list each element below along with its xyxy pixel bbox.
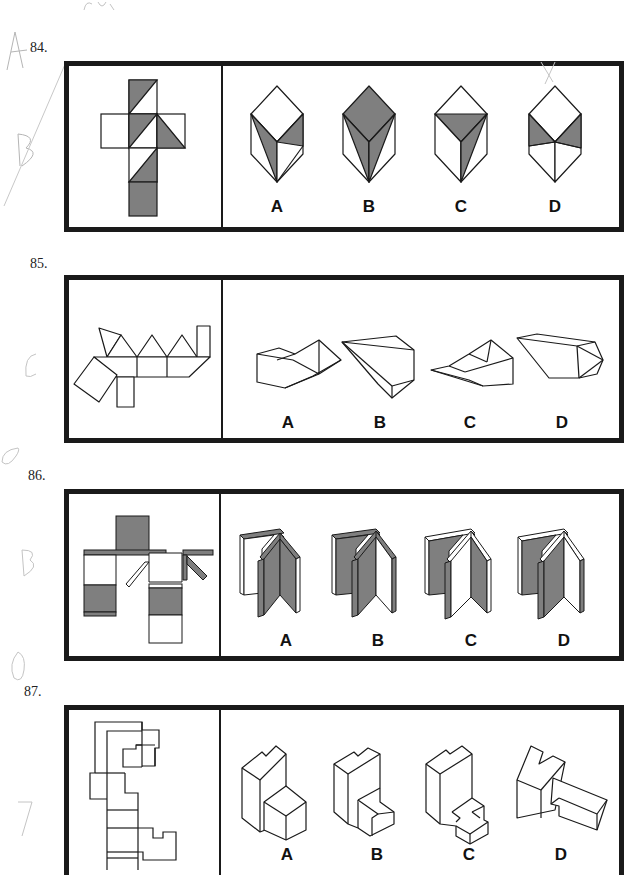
option-c-label[interactable]: C <box>454 845 484 865</box>
margin-mark-o <box>8 650 30 684</box>
margin-mark-c <box>20 350 40 380</box>
margin-mark-o <box>0 446 24 468</box>
panel-divider <box>221 280 223 438</box>
option-a-block[interactable] <box>240 740 330 840</box>
x-mark-on-option-d <box>539 60 559 86</box>
margin-mark-b <box>18 546 40 580</box>
option-d-solid[interactable] <box>515 328 595 398</box>
option-a-cube[interactable] <box>247 84 307 184</box>
panel-divider <box>219 494 221 656</box>
option-d-label[interactable]: D <box>546 845 576 865</box>
panel-divider <box>219 710 221 875</box>
option-c-label[interactable]: C <box>455 413 485 433</box>
question-84-panel: A B C D <box>64 61 624 232</box>
question-85-panel: A B C D <box>64 275 624 443</box>
book-net-figure <box>69 494 219 659</box>
option-c-cube[interactable] <box>431 84 491 184</box>
question-87-panel: A B C D <box>64 705 624 875</box>
question-number: 85. <box>30 256 48 272</box>
option-a-label[interactable]: A <box>262 197 292 217</box>
option-d-label[interactable]: D <box>549 631 579 651</box>
option-a-label[interactable]: A <box>273 413 303 433</box>
option-b-block[interactable] <box>332 740 422 840</box>
option-b-book[interactable] <box>332 529 402 624</box>
option-a-solid[interactable] <box>255 328 335 398</box>
option-c-label[interactable]: C <box>456 631 486 651</box>
option-d-cube[interactable] <box>525 84 585 184</box>
option-b-label[interactable]: B <box>363 631 393 651</box>
option-a-book[interactable] <box>240 529 310 624</box>
option-d-label[interactable]: D <box>540 197 570 217</box>
option-b-label[interactable]: B <box>362 845 392 865</box>
option-b-label[interactable]: B <box>365 413 395 433</box>
option-c-solid[interactable] <box>429 328 509 398</box>
option-a-label[interactable]: A <box>272 845 302 865</box>
option-d-book[interactable] <box>518 529 588 624</box>
panel-divider <box>221 66 223 227</box>
pencil-slash-line <box>0 60 70 210</box>
block-net-figure <box>69 710 219 870</box>
solid-net-figure <box>69 280 221 440</box>
question-number: 87. <box>24 684 42 700</box>
question-number: 86. <box>28 468 46 484</box>
option-b-label[interactable]: B <box>354 197 384 217</box>
cube-net-figure <box>94 76 204 226</box>
handwriting-scribble-top <box>80 0 140 12</box>
margin-mark-d <box>14 798 38 838</box>
option-b-cube[interactable] <box>339 84 399 184</box>
question-86-panel: A B C D <box>64 489 624 661</box>
option-c-label[interactable]: C <box>446 197 476 217</box>
option-b-solid[interactable] <box>340 328 420 398</box>
question-number: 84. <box>30 40 48 56</box>
option-a-label[interactable]: A <box>271 631 301 651</box>
option-d-block[interactable] <box>515 740 605 840</box>
option-c-book[interactable] <box>425 529 495 624</box>
option-d-label[interactable]: D <box>547 413 577 433</box>
option-c-block[interactable] <box>424 740 514 840</box>
